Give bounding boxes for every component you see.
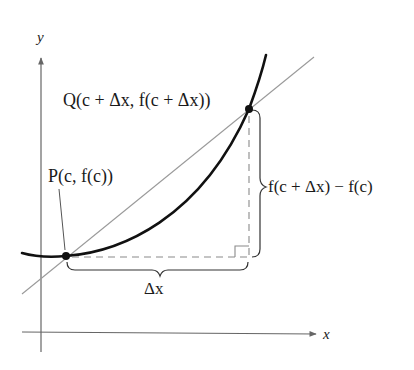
delta-x-brace xyxy=(67,262,248,276)
secant-line-diagram: y x Δx f(c + Δx) − f(c) Q(c + Δx, f(c + … xyxy=(0,0,414,370)
diagram-svg: y x Δx f(c + Δx) − f(c) Q(c + Δx, f(c + … xyxy=(0,0,414,370)
point-p xyxy=(62,252,70,260)
point-q-label: Q(c + Δx, f(c + Δx)) xyxy=(63,90,210,111)
x-axis-label: x xyxy=(322,326,330,342)
change-legs xyxy=(72,116,249,257)
vertical-change-label: f(c + Δx) − f(c) xyxy=(268,177,373,196)
point-p-label: P(c, f(c)) xyxy=(48,166,113,187)
point-p-leader-line xyxy=(59,189,65,250)
x-axis xyxy=(22,332,316,334)
delta-x-label: Δx xyxy=(144,279,164,298)
y-axis-label: y xyxy=(35,29,44,45)
vertical-change-brace xyxy=(252,110,266,257)
function-curve xyxy=(22,55,266,257)
point-q xyxy=(245,105,253,113)
right-angle-marker xyxy=(235,246,249,257)
